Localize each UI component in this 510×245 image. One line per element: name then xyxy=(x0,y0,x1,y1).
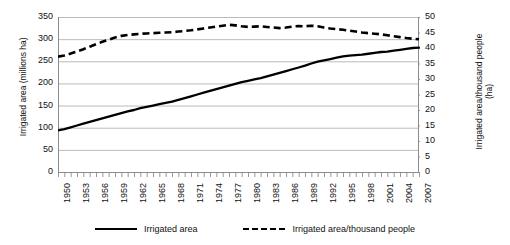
y-axis-left-tick-label: 250 xyxy=(27,55,53,65)
y-axis-right-tick-label: 20 xyxy=(425,104,451,114)
y-axis-left-tick-label: 350 xyxy=(27,11,53,21)
y-axis-left-tick-label: 200 xyxy=(27,77,53,87)
y-axis-left-tick-label: 150 xyxy=(27,100,53,110)
series-line-solid xyxy=(58,48,419,131)
y-axis-right-tick-label: 50 xyxy=(425,11,451,21)
plot-area xyxy=(58,17,419,172)
x-axis-tick-label: 2007 xyxy=(423,183,433,203)
y-axis-right-tick-label: 10 xyxy=(425,135,451,145)
legend-item-irrigated-area: Irrigated area xyxy=(95,224,198,234)
y-axis-right-tick-label: 40 xyxy=(425,42,451,52)
legend-label: Irrigated area/thousand people xyxy=(292,224,415,234)
y-axis-right-tick-label: 30 xyxy=(425,73,451,83)
legend-label: Irrigated area xyxy=(144,224,198,234)
y-axis-right-tick-label: 45 xyxy=(425,27,451,37)
legend-item-irrigated-area-per-thousand-people: Irrigated area/thousand people xyxy=(243,224,415,234)
y-axis-right-tick-label: 5 xyxy=(425,151,451,161)
y-axis-left-tick-label: 300 xyxy=(27,33,53,43)
y-axis-right-title: Irrigated area/thousand people (ha) xyxy=(475,12,494,172)
legend-swatch-dashed-line-icon xyxy=(243,228,285,230)
legend-swatch-solid-line-icon xyxy=(95,228,137,230)
y-axis-left-tick-label: 0 xyxy=(27,166,53,176)
y-axis-right-tick-label: 35 xyxy=(425,58,451,68)
series-line-dashed xyxy=(58,25,419,57)
y-axis-right-tick-label: 0 xyxy=(425,166,451,176)
y-axis-right-tick-label: 25 xyxy=(425,89,451,99)
y-axis-left-tick-label: 50 xyxy=(27,144,53,154)
y-axis-right-tick-label: 15 xyxy=(425,120,451,130)
y-axis-left-tick-label: 100 xyxy=(27,122,53,132)
chart-legend: Irrigated area Irrigated area/thousand p… xyxy=(0,218,510,240)
chart-figure: Irrigated area (millions ha) Irrigated a… xyxy=(0,0,510,245)
